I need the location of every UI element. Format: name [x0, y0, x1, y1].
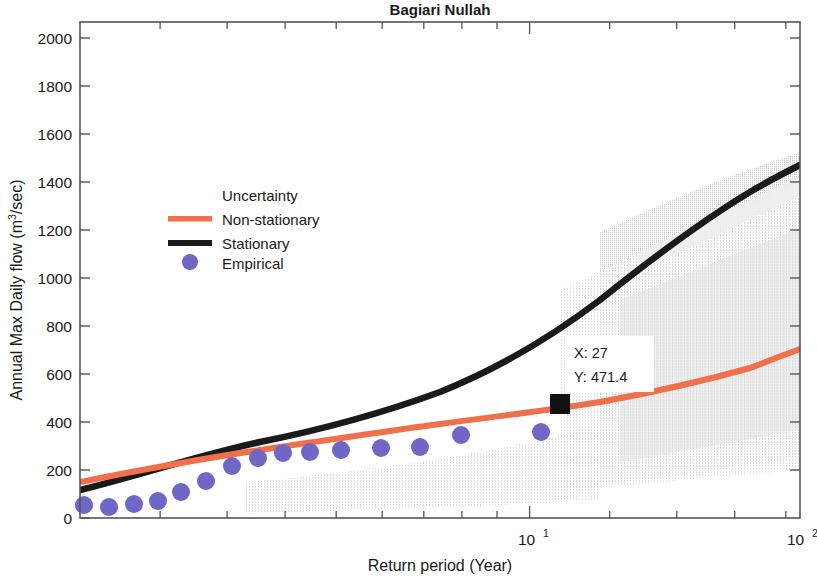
legend-label-stationary: Stationary [222, 235, 290, 252]
legend-label-empirical: Empirical [222, 255, 284, 272]
y-tick-1400: 1400 [38, 174, 73, 191]
chart-figure: 2000 1800 1600 1400 1200 1000 800 600 40… [0, 0, 817, 577]
x-tick-10e1-exponent: 1 [543, 527, 549, 539]
legend-swatch-stationary [168, 240, 212, 246]
y-tick-1000: 1000 [38, 270, 73, 287]
x-tick-10e2-exponent: 2 [812, 527, 817, 539]
legend-swatch-uncertainty [168, 192, 212, 197]
y-tick-1600: 1600 [38, 126, 73, 143]
x-tick-10e1: 10 [518, 531, 536, 548]
y-tick-400: 400 [46, 414, 72, 431]
y-tick-600: 600 [46, 366, 72, 383]
y-axis-label-tail: /sec) [8, 179, 25, 214]
chart-title: Bagiari Nullah [390, 1, 491, 18]
chart-canvas: 2000 1800 1600 1400 1200 1000 800 600 40… [0, 0, 817, 577]
y-axis-label-main: Annual Max Daily flow (m [8, 220, 25, 401]
datatip-y-label: Y: 471.4 [574, 369, 627, 385]
datatip-x-label: X: 27 [574, 345, 608, 361]
y-tick-0: 0 [63, 510, 72, 527]
legend-label-nonstationary: Non-stationary [222, 211, 320, 228]
x-axis-label: Return period (Year) [368, 557, 512, 574]
x-tick-10e2: 10 [787, 531, 805, 548]
legend-label-uncertainty: Uncertainty [222, 187, 298, 204]
y-axis-label-group: Annual Max Daily flow (m3/sec) [6, 179, 25, 400]
y-axis-label: Annual Max Daily flow (m3/sec) [6, 179, 25, 400]
legend-swatch-empirical [182, 254, 198, 270]
y-tick-1800: 1800 [38, 78, 73, 95]
x-tick-labels: 10 1 10 2 [518, 527, 817, 548]
y-tick-200: 200 [46, 462, 72, 479]
y-tick-1200: 1200 [38, 222, 73, 239]
y-tick-800: 800 [46, 318, 72, 335]
datatip-marker[interactable] [550, 394, 570, 414]
y-tick-2000: 2000 [38, 30, 73, 47]
legend-swatch-nonstationary [168, 216, 212, 222]
y-tick-labels: 2000 1800 1600 1400 1200 1000 800 600 40… [38, 30, 73, 527]
